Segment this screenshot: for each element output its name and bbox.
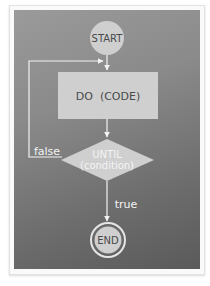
start-label: START (92, 33, 123, 44)
process-label: DO (CODE) (76, 90, 140, 103)
decision-label-line2: (condition) (80, 160, 134, 171)
true-edge-label: true (115, 198, 138, 211)
decision-label-line1: UNTIL (80, 149, 134, 160)
end-label: END (97, 235, 119, 246)
decision-label: UNTIL (condition) (80, 149, 134, 171)
false-edge-label: false (34, 145, 60, 158)
